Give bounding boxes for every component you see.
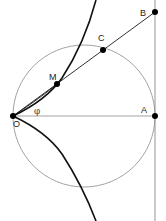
line-ob xyxy=(13,12,155,116)
label-angle-phi: φ xyxy=(34,106,40,116)
point-a xyxy=(152,113,158,119)
cissoid-upper-branch xyxy=(13,0,96,116)
label-b: B xyxy=(140,8,146,18)
cissoid-diagram: O M C B A φ xyxy=(0,0,166,221)
point-b xyxy=(152,9,158,15)
label-a: A xyxy=(141,105,147,115)
point-c xyxy=(100,47,106,53)
cissoid-lower-branch xyxy=(13,116,96,221)
label-m: M xyxy=(49,72,57,82)
label-o: O xyxy=(13,119,20,129)
label-c: C xyxy=(98,33,105,43)
